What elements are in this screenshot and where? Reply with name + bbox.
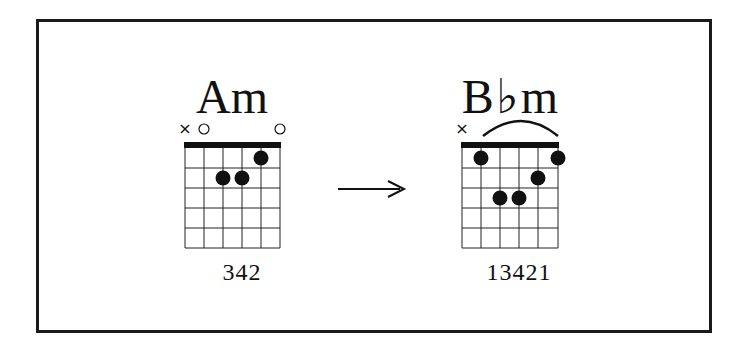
chord-bbm: B♭m × 13421 <box>455 70 565 285</box>
chord-title-bbm: B♭m <box>462 70 558 123</box>
frets <box>185 168 280 248</box>
finger-dot <box>493 191 508 206</box>
barre-arc-icon <box>483 121 558 136</box>
muted-string-icon: × <box>178 119 191 138</box>
open-string-icon <box>199 124 209 134</box>
nut <box>184 142 281 148</box>
chord-diagram: Am × 342 <box>0 0 744 346</box>
finger-dot <box>216 171 231 186</box>
nut <box>461 142 559 148</box>
fingering-label-bbm: 13421 <box>487 259 552 285</box>
open-string-icon <box>275 124 285 134</box>
fingering-label-am: 342 <box>223 259 262 285</box>
arrow-icon <box>338 181 404 197</box>
chord-title-am: Am <box>196 70 268 123</box>
chord-am: Am × 342 <box>178 70 285 285</box>
finger-dot <box>235 171 250 186</box>
finger-dot <box>531 171 546 186</box>
finger-dot <box>474 151 489 166</box>
finger-dot <box>551 151 566 166</box>
finger-dot <box>512 191 527 206</box>
muted-string-icon: × <box>455 119 468 138</box>
finger-dot <box>254 151 269 166</box>
